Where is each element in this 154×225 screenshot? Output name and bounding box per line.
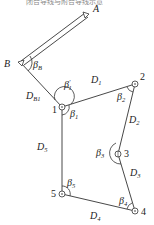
- label-D3: D3: [129, 167, 141, 179]
- label-station-2: 2: [140, 71, 145, 82]
- baseline-edge-2: [24, 17, 88, 65]
- triangle-marker-A: [83, 12, 89, 18]
- label-B: B: [4, 58, 10, 69]
- label-station-4: 4: [141, 206, 146, 217]
- station-marker-1: [59, 104, 65, 110]
- label-beta4: β4: [118, 195, 128, 207]
- station-marker-4: [132, 208, 138, 214]
- label-beta1: β1: [69, 108, 78, 120]
- angle-arc-beta2: [127, 87, 133, 92]
- angle-arc-beta4: [127, 203, 132, 209]
- label-D1: D1: [90, 74, 101, 86]
- label-D4: D4: [89, 210, 101, 222]
- label-station-3: 3: [124, 148, 129, 159]
- label-D5: D5: [36, 141, 48, 153]
- label-station-1: 1: [52, 104, 57, 115]
- label-beta3: β3: [95, 147, 105, 159]
- label-D2: D2: [128, 114, 140, 126]
- label-beta1-prime: β′1: [63, 78, 72, 91]
- station-marker-5: [59, 191, 65, 197]
- label-betaB: βB: [32, 59, 42, 71]
- traverse-diagram: 闭合导线与附合导线示意 A B 1 2 3 4 5 DB1 D1 D2 D3 D…: [0, 0, 154, 225]
- label-station-5: 5: [51, 188, 56, 199]
- header-cut-text: 闭合导线与附合导线示意: [26, 0, 103, 6]
- angle-arc-betaB: [28, 56, 32, 71]
- label-A: A: [92, 3, 100, 14]
- label-beta2: β2: [116, 91, 126, 103]
- label-beta5: β5: [66, 177, 76, 189]
- baseline-edge-1: [21, 13, 85, 61]
- station-marker-3: [115, 151, 121, 157]
- station-marker-2: [132, 81, 138, 87]
- label-DB1: DB1: [25, 90, 40, 102]
